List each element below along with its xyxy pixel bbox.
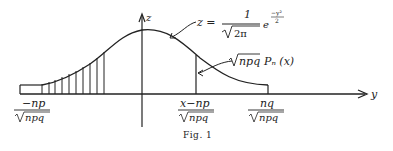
step-pointer <box>198 61 232 73</box>
figure-caption: Fig. 1 <box>183 130 212 140</box>
z-axis-label: z <box>145 12 152 23</box>
tick-right-denominator: npq <box>259 112 278 123</box>
formula-denominator: 2π <box>234 28 247 39</box>
step-pointer-arrow-icon <box>198 70 203 76</box>
left-step-region <box>20 85 42 94</box>
formula-pointer <box>172 22 196 37</box>
tick-left-denominator: npq <box>25 112 44 123</box>
formula-numerator: 1 <box>244 8 251 21</box>
curve-formula: z = 1 2π e −y² 2 <box>196 8 284 39</box>
tick-label-left: −np npq <box>14 97 50 123</box>
step-label-radical: npq <box>239 55 260 68</box>
tick-label-middle: x−np npq <box>178 97 214 123</box>
tick-middle-denominator: npq <box>189 112 208 123</box>
step-label: npq Pₙ (x) <box>229 54 294 68</box>
y-axis-label: y <box>370 88 378 101</box>
formula-exp-base: e <box>263 19 269 30</box>
formula-exponent-numerator: −y² <box>271 9 282 17</box>
formula-exponent-denominator: 2 <box>275 17 279 24</box>
normal-approximation-figure: y z z = 1 2π e −y <box>0 0 393 151</box>
tick-middle-numerator: x−np <box>180 97 210 110</box>
tick-left-numerator: −np <box>22 97 45 110</box>
step-label-rest: Pₙ (x) <box>263 55 294 68</box>
tick-right-numerator: nq <box>260 97 274 110</box>
hatched-area <box>42 52 104 94</box>
tick-label-right: nq npq <box>248 97 284 123</box>
formula-lhs: z = <box>196 16 216 29</box>
